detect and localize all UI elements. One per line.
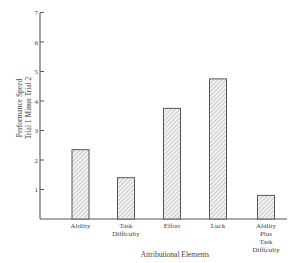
bars: [72, 79, 275, 219]
category-label: Ability: [71, 222, 91, 230]
y-tick-label: 5: [35, 68, 39, 76]
y-tick-label: 3: [35, 127, 39, 135]
x-axis-title: Attributional Elements: [141, 250, 210, 259]
y-axis-title: Performance SpeedTrial 1 Minus Trial 2: [15, 76, 33, 139]
bar-chart: 1234567 AbilityTaskDifficultyEffortLuckA…: [0, 0, 292, 263]
bar-ability-plus-task-difficulty: [258, 195, 275, 219]
y-tick-label: 4: [35, 98, 39, 106]
y-tick-label: 1: [35, 186, 39, 194]
category-label: TaskDifficulty: [112, 222, 140, 238]
category-label: Luck: [211, 222, 226, 230]
bar-task-difficulty: [118, 178, 135, 219]
y-tick-label: 7: [35, 9, 39, 17]
y-tick-label: 6: [35, 39, 39, 47]
y-tick-label: 2: [35, 157, 39, 165]
bar-effort: [164, 108, 181, 219]
y-axis: 1234567: [35, 9, 45, 219]
bar-luck: [210, 79, 227, 219]
chart-canvas: 1234567 AbilityTaskDifficultyEffortLuckA…: [0, 0, 292, 263]
category-label: AbilityPlusTaskDifficulty: [252, 222, 280, 254]
bar-ability: [72, 150, 89, 219]
category-label: Effort: [164, 222, 181, 230]
